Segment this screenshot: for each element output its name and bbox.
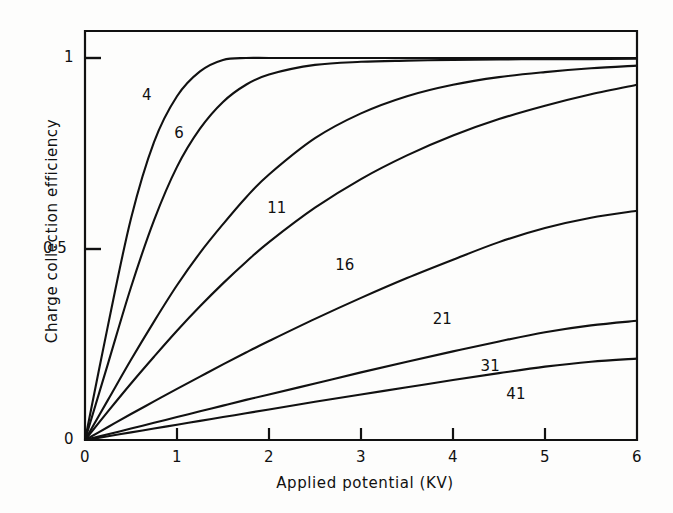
x-tick-label-0: 0 xyxy=(80,448,90,466)
data-curves xyxy=(85,58,637,440)
y-tick-label-1: 1 xyxy=(64,48,74,66)
plot-frame xyxy=(85,31,637,440)
x-axis-title: Applied potential (KV) xyxy=(205,474,525,492)
curve-6 xyxy=(85,59,637,440)
curve-31 xyxy=(85,321,637,440)
curve-16 xyxy=(85,85,637,440)
curve-4 xyxy=(85,58,637,440)
curve-label-31: 31 xyxy=(481,357,500,375)
curve-label-11: 11 xyxy=(267,199,286,217)
curve-label-41: 41 xyxy=(506,385,525,403)
x-tick-label-1: 1 xyxy=(172,448,182,466)
curve-label-4: 4 xyxy=(142,86,152,104)
curve-21 xyxy=(85,211,637,440)
curve-label-16: 16 xyxy=(335,256,354,274)
x-tick-label-2: 2 xyxy=(264,448,274,466)
x-tick-label-4: 4 xyxy=(448,448,458,466)
chart-figure: Charge collection efficiency Applied pot… xyxy=(0,0,673,513)
y-tick-label-0: 0 xyxy=(64,430,74,448)
x-tick-label-5: 5 xyxy=(540,448,550,466)
curve-41 xyxy=(85,359,637,440)
curve-label-21: 21 xyxy=(433,310,452,328)
curve-11 xyxy=(85,66,637,440)
curve-label-6: 6 xyxy=(174,124,184,142)
y-axis-title: Charge collection efficiency xyxy=(43,101,61,361)
y-tick-label-0·5: 0·5 xyxy=(43,239,67,257)
x-tick-label-3: 3 xyxy=(356,448,366,466)
x-tick-label-6: 6 xyxy=(632,448,642,466)
